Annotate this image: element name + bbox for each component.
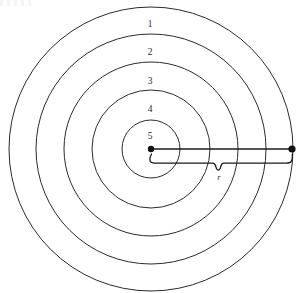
concentric-circles-svg: 1 2 3 4 5 r [0, 0, 302, 293]
center-point-dot [148, 146, 154, 152]
radius-endpoint-dot [288, 145, 295, 152]
ring-label-1: 1 [148, 19, 153, 29]
ring-label-4: 4 [148, 104, 153, 114]
radius-brace [150, 154, 293, 170]
ring-label-2: 2 [148, 47, 153, 57]
ring-label-3: 3 [148, 76, 153, 86]
target-diagram-figure: 1 2 3 4 5 r [0, 0, 302, 293]
radius-label-r: r [217, 172, 221, 182]
ring-label-5: 5 [148, 131, 153, 141]
